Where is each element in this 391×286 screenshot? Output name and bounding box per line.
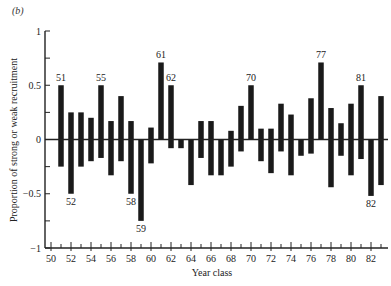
- x-tick-label: 74: [286, 253, 296, 264]
- bar-strong-62: [168, 85, 174, 139]
- bar-weak-76: [308, 140, 314, 154]
- bar-labels-group: 5152555859616270778182: [56, 49, 376, 233]
- bar-label-82: 82: [366, 198, 376, 209]
- x-tick-label: 64: [186, 253, 196, 264]
- bar-weak-59: [138, 140, 144, 221]
- bar-label-58: 58: [126, 196, 136, 207]
- x-tick-label: 50: [46, 253, 56, 264]
- panel-label: (b): [12, 5, 24, 17]
- bar-weak-67: [218, 140, 224, 176]
- bar-label-51: 51: [56, 72, 66, 83]
- bar-label-52: 52: [66, 196, 76, 207]
- bar-weak-72: [268, 140, 274, 174]
- bar-weak-53: [78, 140, 84, 167]
- bar-weak-82: [368, 140, 374, 196]
- bar-strong-79: [338, 123, 344, 139]
- bar-strong-57: [118, 96, 124, 139]
- bar-strong-54: [88, 118, 94, 140]
- x-tick-label: 70: [246, 253, 256, 264]
- x-tick-label: 58: [126, 253, 136, 264]
- x-tick-label: 60: [146, 253, 156, 264]
- bar-weak-54: [88, 140, 94, 162]
- bar-strong-65: [198, 121, 204, 139]
- bar-strong-69: [238, 106, 244, 140]
- recruitment-bar-chart: (b) Proportion of strong or weak recruit…: [0, 0, 391, 286]
- bar-strong-71: [258, 129, 264, 140]
- bar-strong-52: [68, 112, 74, 139]
- bar-weak-69: [238, 140, 244, 152]
- x-tick-label: 68: [226, 253, 236, 264]
- y-tick-label: 0: [36, 134, 41, 145]
- bar-strong-74: [288, 115, 294, 140]
- bar-strong-70: [248, 85, 254, 139]
- x-tick-label: 82: [366, 253, 376, 264]
- y-tick-label: −1: [30, 243, 41, 254]
- bar-label-55: 55: [96, 72, 106, 83]
- bar-weak-52: [68, 140, 74, 194]
- bar-strong-51: [58, 85, 64, 139]
- bar-weak-78: [328, 140, 334, 188]
- bar-weak-75: [298, 140, 304, 156]
- bar-weak-58: [128, 140, 134, 194]
- bar-weak-73: [278, 140, 284, 152]
- bar-weak-51: [58, 140, 64, 167]
- bar-strong-53: [78, 112, 84, 139]
- x-tick-label: 52: [66, 253, 76, 264]
- x-tick-label: 56: [106, 253, 116, 264]
- y-tick-label: −0.5: [23, 188, 41, 199]
- bar-weak-64: [188, 140, 194, 186]
- bar-weak-83: [378, 140, 384, 186]
- bar-strong-81: [358, 85, 364, 139]
- bar-weak-60: [148, 140, 154, 164]
- x-tick-label: 78: [326, 253, 336, 264]
- bar-weak-66: [208, 140, 214, 176]
- bar-weak-55: [98, 140, 104, 158]
- bar-weak-74: [288, 140, 294, 176]
- x-tick-label: 72: [266, 253, 276, 264]
- bar-weak-62: [168, 140, 174, 149]
- bar-strong-68: [228, 131, 234, 140]
- y-tick-label: 1: [36, 26, 41, 37]
- x-tick-label: 80: [346, 253, 356, 264]
- bar-weak-68: [228, 140, 234, 167]
- bar-label-70: 70: [246, 72, 256, 83]
- bar-weak-80: [348, 140, 354, 176]
- bar-strong-77: [318, 62, 324, 139]
- bars-group: [58, 62, 384, 220]
- bar-label-61: 61: [156, 49, 166, 60]
- bar-strong-72: [268, 129, 274, 140]
- bar-strong-76: [308, 98, 314, 139]
- bar-strong-66: [208, 121, 214, 139]
- bar-strong-73: [278, 104, 284, 140]
- bar-strong-61: [158, 62, 164, 139]
- bar-strong-78: [328, 108, 334, 139]
- bar-weak-63: [178, 140, 184, 149]
- x-tick-label: 62: [166, 253, 176, 264]
- bar-weak-79: [338, 140, 344, 156]
- y-tick-label: 0.5: [29, 80, 42, 91]
- bar-label-81: 81: [356, 72, 366, 83]
- bar-label-59: 59: [136, 223, 146, 234]
- y-axis-title: Proportion of strong or weak recruitment: [8, 58, 19, 222]
- bar-strong-83: [378, 96, 384, 139]
- bar-weak-71: [258, 140, 264, 162]
- x-axis-title: Year class: [192, 267, 232, 278]
- bar-weak-57: [118, 140, 124, 162]
- bar-weak-56: [108, 140, 114, 176]
- bar-strong-60: [148, 128, 154, 140]
- bar-label-62: 62: [166, 72, 176, 83]
- bar-strong-80: [348, 104, 354, 140]
- x-tick-label: 66: [206, 253, 216, 264]
- bar-strong-55: [98, 85, 104, 139]
- bar-strong-56: [108, 121, 114, 139]
- bar-weak-65: [198, 140, 204, 158]
- bar-strong-58: [128, 121, 134, 139]
- bar-label-77: 77: [316, 49, 326, 60]
- bar-weak-81: [358, 140, 364, 160]
- x-tick-label: 76: [306, 253, 316, 264]
- x-tick-label: 54: [86, 253, 96, 264]
